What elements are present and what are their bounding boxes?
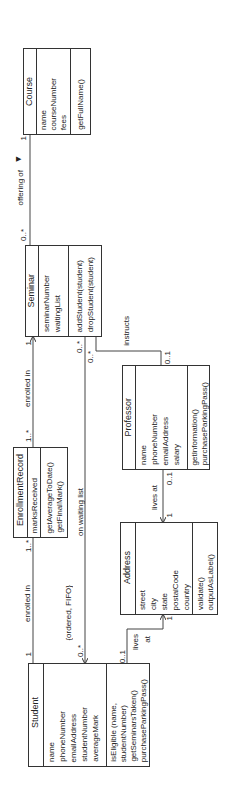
method: outputAsLabel() (206, 554, 216, 610)
class-enrollment-record-title-section: EnrollmentRecord (14, 448, 28, 537)
class-address-methods: validate() outputAsLabel() (193, 523, 217, 614)
attribute: courseNumber (49, 78, 59, 130)
constraint-ordered-fifo: {ordered, FIFO} (64, 585, 73, 641)
class-student-methods: isEligible (name, studentNumber) getSemi… (107, 664, 149, 766)
attribute: name (47, 742, 57, 762)
method: getInformation() (190, 409, 200, 465)
attribute: studentNumber (80, 707, 90, 762)
method: studentNumber) (119, 705, 129, 762)
class-course-title-section: Course (24, 49, 37, 134)
multiplicity-record-lower: 1..* (24, 540, 33, 552)
class-enrollment-record: EnrollmentRecord marksReceived getAverag… (13, 447, 68, 538)
multiplicity-student-enrolled: 1 (24, 652, 33, 656)
association-label-instructs: instructs (122, 316, 131, 346)
attribute: name (39, 110, 49, 130)
multiplicity-record-upper: 1..* (24, 430, 33, 442)
class-student: Student name phoneNumber emailAddress st… (28, 663, 150, 767)
multiplicity-address-professor: 1 (165, 513, 174, 517)
multiplicity-seminar-instructs: 0..* (86, 351, 95, 363)
class-address: Address street city state postalCode cou… (120, 522, 218, 615)
association-label-offering-of: offering of (16, 170, 25, 205)
class-professor-title-section: Professor (123, 366, 136, 469)
association-label-on-waiting-list: on waiting list (76, 488, 85, 536)
association-label-student-lives: lives (131, 634, 140, 650)
class-professor-methods: getInformation() purchaseParkingPass() (188, 366, 209, 469)
attribute: seminarNumber (42, 275, 52, 332)
class-address-title: Address (123, 551, 133, 584)
class-course-attributes: name courseNumber fees (37, 49, 71, 134)
class-professor: Professor name phoneNumber emailAddress … (122, 365, 210, 470)
attribute: marksReceived (30, 478, 40, 533)
attribute: city (149, 598, 159, 610)
multiplicity-seminar-enrolled: 1 (24, 341, 33, 345)
method: validate() (196, 577, 206, 610)
attribute: waitingList (53, 295, 63, 332)
multiplicity-student-lives-at: 0..1 (118, 650, 127, 663)
multiplicity-seminar-waiting: 0..* (75, 341, 84, 353)
class-seminar: Seminar seminarNumber waitingList addStu… (25, 245, 102, 337)
method: getFinalMark() (55, 481, 65, 533)
method: getSeminarsTaken() (129, 690, 139, 762)
method: purchaseParkingPass() (139, 679, 149, 762)
class-seminar-title-section: Seminar (26, 246, 39, 336)
method: getFullName() (76, 79, 86, 130)
class-course-methods: getFullName() (71, 49, 90, 134)
class-enrollment-record-title: EnrollmentRecord (16, 454, 26, 526)
class-seminar-methods: addStudent(student) dropStudent(student) (69, 246, 101, 336)
attribute: postalCode (171, 570, 181, 610)
class-course-title: Course (25, 77, 35, 106)
multiplicity-course-offering: 1 (19, 136, 28, 140)
class-student-title-section: Student (29, 664, 44, 766)
attribute: street (138, 590, 148, 610)
association-label-enrolled-in-lower: enrolled in (23, 585, 32, 622)
multiplicity-professor-lives-at: 0..1 (165, 472, 174, 485)
class-course: Course name courseNumber fees getFullNam… (23, 48, 91, 135)
attribute: phoneNumber (58, 711, 68, 762)
method: getAverageToDate() (45, 462, 55, 533)
method: isEligible (name, (109, 703, 119, 762)
method: dropStudent(student) (86, 257, 96, 332)
multiplicity-professor-instructs: 0..1 (163, 351, 172, 364)
multiplicity-student-waiting: 0..* (76, 645, 85, 657)
class-professor-attributes: name phoneNumber emailAddress salary (136, 366, 188, 469)
attribute: fees (59, 115, 69, 130)
class-professor-title: Professor (124, 398, 134, 437)
method: addStudent(student) (75, 260, 85, 333)
attribute: state (160, 593, 170, 610)
class-enrollment-record-attributes: marksReceived (28, 448, 41, 537)
attribute: emailAddress (69, 714, 79, 762)
association-label-enrolled-in-upper: enrolled in (23, 370, 32, 407)
attribute: name (139, 445, 149, 465)
direction-arrow-icon: ▶ (16, 154, 21, 163)
attribute: emailAddress (161, 417, 171, 465)
attribute: salary (172, 444, 182, 465)
class-student-title: Student (31, 697, 41, 728)
association-label-professor-lives-at: lives at (150, 485, 159, 510)
multiplicity-address-student: 1 (165, 616, 174, 620)
method: purchaseParkingPass() (200, 382, 210, 465)
class-address-attributes: street city state postalCode country (136, 523, 193, 614)
class-enrollment-record-methods: getAverageToDate() getFinalMark() (41, 448, 67, 537)
attribute: averageMark (91, 715, 101, 762)
class-seminar-title: Seminar (27, 274, 37, 308)
association-label-student-at: at (143, 636, 152, 643)
class-seminar-attributes: seminarNumber waitingList (39, 246, 69, 336)
attribute: phoneNumber (150, 414, 160, 465)
attribute: country (182, 584, 192, 610)
class-address-title-section: Address (121, 523, 136, 614)
class-student-attributes: name phoneNumber emailAddress studentNum… (44, 664, 107, 766)
multiplicity-seminar-offering: 0..* (19, 229, 28, 241)
